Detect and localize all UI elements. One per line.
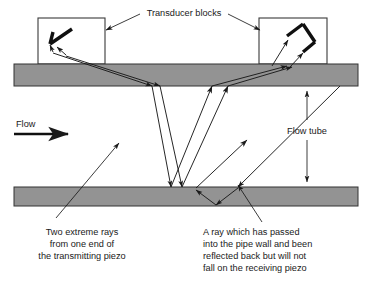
right-transducer-block <box>259 18 327 64</box>
leader-caption-left <box>56 143 119 218</box>
ultrasonic-flowmeter-diagram: Transducer blocks Flow Flow tube Two ext… <box>0 0 366 281</box>
caption-right-line4: fall on the receiving piezo <box>203 263 307 273</box>
flow-tube-label: Flow tube <box>287 126 327 136</box>
caption-left: Two extreme rays from one end of the tra… <box>38 227 125 261</box>
transducer-blocks-label: Transducer blocks <box>147 8 222 18</box>
flow-label: Flow <box>16 119 36 129</box>
receiving-piezo <box>287 24 315 52</box>
lower-pipe-wall <box>14 187 358 206</box>
leader-transducer-right <box>228 14 260 30</box>
caption-left-line3: the transmitting piezo <box>38 251 125 261</box>
diagram-canvas: Transducer blocks Flow Flow tube Two ext… <box>0 0 366 281</box>
leader-transducer-left <box>106 14 140 30</box>
caption-left-line2: from one end of <box>50 239 115 249</box>
caption-right: A ray which has passed into the pipe wal… <box>203 227 312 273</box>
received-ray-bundle <box>171 40 303 187</box>
upper-pipe-wall <box>14 64 358 86</box>
caption-right-line2: into the pipe wall and been <box>203 239 312 249</box>
caption-left-line1: Two extreme rays <box>46 227 119 237</box>
caption-right-line3: reflected back but will not <box>203 251 307 261</box>
caption-right-line1: A ray which has passed <box>203 227 300 237</box>
transmitting-piezo <box>50 29 72 44</box>
left-transducer-block <box>38 18 105 64</box>
